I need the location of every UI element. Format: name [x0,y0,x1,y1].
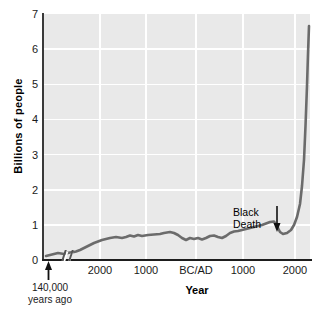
horizontal-gridlines [44,49,310,225]
y-tick-label-1: 1 [16,220,38,231]
y-axis-title: Billions of people [12,61,24,191]
population-chart-figure: 7 6 5 4 3 2 1 0 2000 1000 BC/AD 1000 200… [0,0,332,313]
x-tick-label-1000ad: 1000 [213,264,273,276]
origin-annotation-line1: 140,000 [32,282,68,293]
black-death-annotation: Black Death [233,206,275,230]
x-axis-title: Year [167,284,227,296]
x-axis-line [42,259,312,261]
black-death-annotation-line1: Black [233,206,259,218]
origin-annotation-line2: years ago [10,294,90,306]
up-arrow-icon [45,261,52,280]
black-death-annotation-line2: Death [233,218,275,230]
origin-annotation: 140,000 years ago [10,282,90,305]
y-tick-label-7: 7 [16,9,38,20]
y-axis-line [42,13,44,261]
y-tick-label-6: 6 [16,44,38,55]
y-tick-label-0: 0 [16,255,38,266]
x-tick-label-2000ad: 2000 [265,264,325,276]
